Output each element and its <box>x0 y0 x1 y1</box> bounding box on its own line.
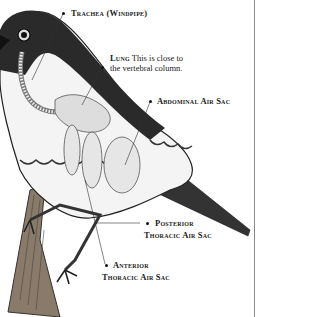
vertical-rule <box>254 0 255 317</box>
label-lung-note-2: the vertebral column. <box>110 63 182 73</box>
label-lung-note-1: This is close to <box>132 53 183 63</box>
label-trachea: Trachea (Windpipe) <box>71 8 147 18</box>
label-lung-title: Lung <box>110 53 130 63</box>
posterior-thoracic-air-sac <box>82 132 102 188</box>
label-posterior-2: Thoracic Air Sac <box>144 230 212 240</box>
label-posterior-1: Posterior <box>155 218 194 228</box>
posterior-marker-dot <box>146 222 149 225</box>
label-lung: Lung This is close to <box>110 53 183 63</box>
label-abdominal-air-sac: Abdominal Air Sac <box>157 96 230 106</box>
anterior-marker-dot <box>105 264 108 267</box>
label-anterior-1: Anterior <box>113 260 149 270</box>
abdominal-marker-dot <box>149 100 152 103</box>
lung-marker-dot <box>101 66 104 69</box>
trachea-marker-dot <box>62 12 65 15</box>
anterior-thoracic-air-sac <box>64 125 80 175</box>
abdominal-air-sac <box>104 137 140 193</box>
label-anterior-2: Thoracic Air Sac <box>102 272 170 282</box>
